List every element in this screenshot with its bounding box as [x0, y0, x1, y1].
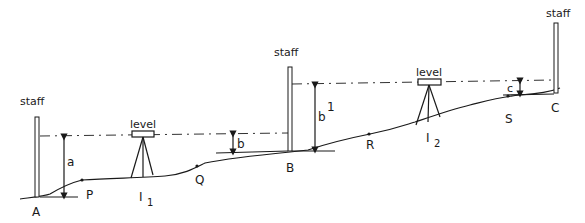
point-s-marker — [506, 94, 509, 97]
level-instrument-2 — [416, 79, 441, 125]
measurement-b-label: b — [237, 137, 245, 151]
measurement-a-label: a — [67, 155, 74, 169]
level-instrument-1 — [131, 131, 154, 178]
point-q-label: Q — [195, 173, 204, 187]
staff-a — [35, 117, 39, 197]
station-i2-label: I — [426, 131, 430, 145]
staff-b-label: staff — [274, 46, 299, 59]
level-1-label: level — [130, 118, 156, 131]
station-i2-subscript: 2 — [434, 138, 440, 149]
point-b-label: B — [286, 161, 294, 175]
measurement-c-label: c — [507, 82, 513, 95]
station-i1-subscript: 1 — [147, 197, 153, 208]
staff-c — [554, 23, 558, 93]
reference-line-b — [216, 151, 288, 153]
point-r-label: R — [366, 138, 374, 152]
point-p-marker — [80, 178, 83, 181]
point-s-label: S — [505, 112, 513, 126]
point-c-label: C — [551, 101, 559, 115]
measurement-b1-superscript: 1 — [327, 100, 335, 114]
point-r-marker — [367, 132, 370, 135]
staff-c-label: staff — [546, 7, 571, 20]
levelling-diagram: staff staff staff level level a b b 1 c — [0, 0, 585, 223]
staff-b — [288, 67, 292, 151]
point-a-label: A — [32, 205, 41, 219]
point-q-marker — [195, 164, 198, 167]
line-of-sight-1 — [40, 133, 288, 136]
station-i1-label: I — [139, 190, 143, 204]
measurement-b1-label: b — [318, 110, 326, 124]
staff-a-label: staff — [20, 95, 45, 108]
point-p-label: P — [86, 188, 93, 202]
level-2-label: level — [416, 66, 442, 79]
